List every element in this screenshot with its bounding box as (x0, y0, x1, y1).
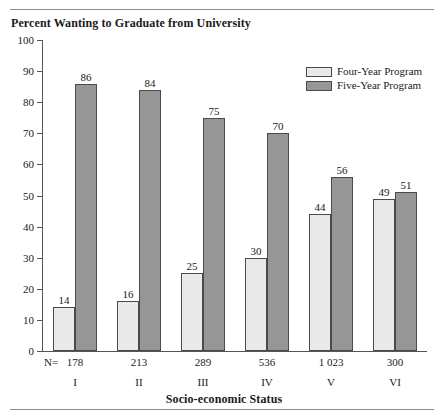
bar-five-year: 70 (267, 133, 289, 351)
bar-value-label: 70 (273, 121, 284, 132)
legend-swatch (306, 81, 332, 91)
bar-group: 2575 (171, 40, 235, 351)
y-tick-label: 90 (23, 66, 34, 77)
n-count-label: 289 (195, 357, 212, 368)
category-label: VI (389, 377, 401, 388)
bar-four-year: 44 (309, 214, 331, 351)
bar-group: 1486 (43, 40, 107, 351)
n-count-label: 213 (131, 357, 148, 368)
bar-group: 3070 (235, 40, 299, 351)
bar-value-label: 25 (187, 261, 198, 272)
y-tick-mark (37, 320, 42, 321)
bar-value-label: 16 (123, 289, 134, 300)
y-tick-label: 80 (23, 97, 34, 108)
bar-value-label: 14 (59, 295, 70, 306)
x-axis-title: Socio-economic Status (0, 392, 448, 407)
bar-value-label: 84 (145, 78, 156, 89)
chart-figure: Percent Wanting to Graduate from Univers… (0, 0, 448, 418)
y-tick-label: 20 (23, 283, 34, 294)
n-count-label: 1 023 (319, 357, 344, 368)
y-tick-label: 70 (23, 128, 34, 139)
category-labels-row: IIIIIIIVVVI (43, 377, 427, 391)
y-tick-mark (37, 351, 42, 352)
bar-four-year: 25 (181, 273, 203, 351)
legend-swatch (306, 67, 332, 77)
y-tick-mark (37, 71, 42, 72)
y-tick-label: 30 (23, 252, 34, 263)
bar-value-label: 49 (379, 187, 390, 198)
legend-item: Five-Year Program (306, 80, 422, 91)
n-counts-row: 1782132895361 023300 (43, 357, 427, 371)
y-tick-label: 60 (23, 159, 34, 170)
category-label: III (198, 377, 209, 388)
bar-four-year: 16 (117, 301, 139, 351)
y-tick-label: 50 (23, 190, 34, 201)
n-count-label: 300 (387, 357, 404, 368)
n-count-label: 536 (259, 357, 276, 368)
bar-four-year: 49 (373, 199, 395, 351)
bottom-rule (10, 409, 434, 410)
bar-four-year: 30 (245, 258, 267, 351)
bar-four-year: 14 (53, 307, 75, 351)
category-label: IV (261, 377, 273, 388)
top-rule (10, 9, 434, 10)
bar-five-year: 75 (203, 118, 225, 351)
legend-item: Four-Year Program (306, 66, 422, 77)
bar-value-label: 56 (337, 165, 348, 176)
y-tick-mark (37, 258, 42, 259)
n-count-label: 178 (67, 357, 84, 368)
bar-value-label: 51 (401, 180, 412, 191)
bar-value-label: 30 (251, 246, 262, 257)
bar-group: 1684 (107, 40, 171, 351)
legend: Four-Year ProgramFive-Year Program (306, 66, 422, 94)
legend-label: Five-Year Program (337, 80, 421, 91)
bar-value-label: 86 (81, 72, 92, 83)
y-tick-label: 10 (23, 314, 34, 325)
y-tick-mark (37, 133, 42, 134)
y-tick-mark (37, 164, 42, 165)
chart-title: Percent Wanting to Graduate from Univers… (11, 16, 251, 31)
y-tick-mark (37, 102, 42, 103)
bar-value-label: 44 (315, 202, 326, 213)
y-tick-label: 40 (23, 221, 34, 232)
category-label: I (73, 377, 77, 388)
bar-five-year: 86 (75, 84, 97, 351)
bar-five-year: 51 (395, 192, 417, 351)
y-tick-mark (37, 196, 42, 197)
y-tick-mark (37, 227, 42, 228)
category-label: V (327, 377, 335, 388)
category-label: II (135, 377, 142, 388)
x-axis-line (42, 351, 427, 352)
y-tick-mark (37, 289, 42, 290)
y-tick-label: 100 (18, 35, 35, 46)
legend-label: Four-Year Program (337, 66, 422, 77)
bar-five-year: 56 (331, 177, 353, 351)
bar-five-year: 84 (139, 90, 161, 351)
y-tick-label: 0 (29, 346, 35, 357)
y-tick-mark (37, 40, 42, 41)
bar-value-label: 75 (209, 106, 220, 117)
